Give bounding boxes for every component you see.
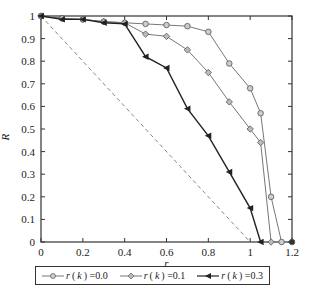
circle-marker <box>279 239 285 245</box>
reference-dashed-line <box>41 16 250 242</box>
legend-k: k <box>233 270 237 281</box>
triangle-marker <box>184 105 191 111</box>
series-line <box>41 16 271 242</box>
circle-marker <box>164 22 170 28</box>
line-chart: 00.20.40.60.811.200.10.20.30.40.50.60.70… <box>0 0 309 295</box>
circle-marker <box>268 194 274 200</box>
legend-r: r <box>66 270 70 281</box>
legend-k: k <box>155 270 159 281</box>
triangle-marker <box>142 53 149 59</box>
x-tick-label: 1.2 <box>285 246 299 258</box>
y-tick-label: 0.3 <box>21 168 35 180</box>
y-tick-label: 0 <box>30 236 36 248</box>
circle-marker <box>185 23 191 29</box>
triangle-marker <box>163 65 170 71</box>
y-tick-label: 0.9 <box>21 33 35 45</box>
y-tick-label: 0.6 <box>21 100 35 112</box>
legend-k: k <box>77 270 81 281</box>
circle-marker-icon <box>42 272 64 280</box>
series-line <box>41 16 261 242</box>
legend-r: r <box>144 270 148 281</box>
legend-paren: ( <box>227 270 230 281</box>
diamond-marker <box>142 31 148 37</box>
circle-marker <box>247 86 253 92</box>
triangle-marker <box>226 169 233 175</box>
axes: 00.20.40.60.811.200.10.20.30.40.50.60.70… <box>0 10 299 269</box>
legend: r (k) =0.0 r (k) =0.1 r (k) =0.3 <box>35 266 270 285</box>
y-tick-label: 0.2 <box>21 191 35 203</box>
legend-value: ) =0.3 <box>239 270 263 281</box>
y-axis-label: R <box>0 133 11 141</box>
y-tick-label: 1 <box>30 10 36 22</box>
y-tick-label: 0.5 <box>21 123 35 135</box>
diamond-marker <box>268 239 274 245</box>
circle-marker <box>143 21 149 27</box>
series-1 <box>38 13 274 245</box>
circle-marker <box>206 29 212 35</box>
series-group <box>38 13 295 245</box>
diamond-marker <box>163 33 169 39</box>
circle-marker <box>258 110 264 116</box>
legend-item-1: r (k) =0.1 <box>120 270 186 281</box>
series-line <box>41 16 282 242</box>
triangle-marker-icon <box>197 272 219 280</box>
y-tick-label: 0.4 <box>21 146 35 158</box>
x-tick-label: 0.4 <box>118 246 132 258</box>
diamond-marker-icon <box>120 272 142 280</box>
x-tick-label: 0.8 <box>201 246 215 258</box>
y-tick-label: 0.1 <box>21 213 35 225</box>
legend-r: r <box>221 270 225 281</box>
plot-frame <box>41 16 292 242</box>
y-tick-label: 0.8 <box>21 55 35 67</box>
y-tick-label: 0.7 <box>21 78 35 90</box>
series-2 <box>38 13 264 245</box>
x-tick-label: 1 <box>247 246 253 258</box>
circle-marker <box>289 239 295 245</box>
legend-item-2: r (k) =0.3 <box>197 270 263 281</box>
series-3 <box>289 239 295 245</box>
legend-value: ) =0.1 <box>161 270 185 281</box>
legend-item-0: r (k) =0.0 <box>42 270 108 281</box>
x-tick-label: 0.2 <box>76 246 90 258</box>
legend-paren: ( <box>150 270 153 281</box>
circle-marker <box>226 61 232 67</box>
x-tick-label: 0 <box>38 246 44 258</box>
legend-paren: ( <box>72 270 75 281</box>
triangle-marker <box>247 205 254 211</box>
legend-value: ) =0.0 <box>84 270 108 281</box>
